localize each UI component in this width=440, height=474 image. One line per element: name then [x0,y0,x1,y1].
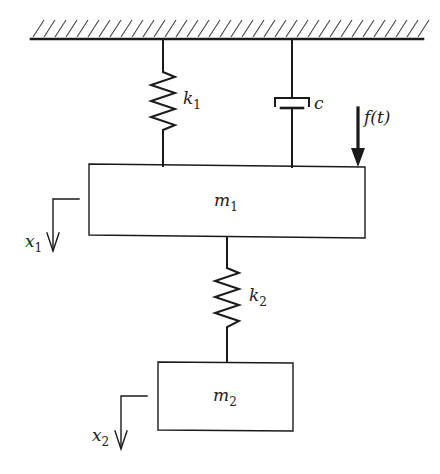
hatch-mark [66,20,77,37]
hatch-mark [418,20,429,37]
hatch-mark [99,20,110,37]
spring-k1: k1 [151,39,201,166]
hatch-mark [110,20,121,37]
hatch-mark [341,20,352,37]
hatch-mark [319,20,330,37]
mass-m2-label: m2 [213,385,237,409]
spring-k1-label: k1 [183,88,201,112]
damper-cylinder-icon [275,98,309,106]
hatch-mark [132,20,143,37]
hatch-mark [209,20,220,37]
hatch-mark [308,20,319,37]
hatch-mark [88,20,99,37]
hatch-mark [297,20,308,37]
ground-hatching [33,20,429,37]
hatch-mark [275,20,286,37]
ground-support [31,20,429,39]
hatch-mark [77,20,88,37]
force-f-label: f(t) [362,107,390,127]
displacement-x2: x2 [92,396,147,449]
hatch-mark [121,20,132,37]
hatch-mark [198,20,209,37]
mass-m1-label: m1 [214,190,238,214]
hatch-mark [253,20,264,37]
hatch-mark [176,20,187,37]
hatch-mark [33,20,44,37]
force-arrow-down-icon [351,148,365,167]
hatch-mark [55,20,66,37]
spring-k2: k2 [215,237,267,362]
mass-m2: m2 [158,362,293,431]
hatch-mark [385,20,396,37]
x1-reference-line [53,199,79,250]
hatch-mark [154,20,165,37]
spring-mass-damper-diagram: k1 c f(t) m1 x1 k2 [0,0,440,474]
displacement-x1: x1 [25,199,79,255]
damper-c-label: c [314,93,324,113]
hatch-mark [143,20,154,37]
x1-label: x1 [25,231,42,255]
hatch-mark [187,20,198,37]
x2-label: x2 [92,425,109,449]
hatch-mark [44,20,55,37]
hatch-mark [374,20,385,37]
hatch-mark [242,20,253,37]
hatch-mark [396,20,407,37]
damper-c: c [275,39,324,167]
hatch-mark [330,20,341,37]
hatch-mark [220,20,231,37]
spring-k2-icon [215,237,239,362]
spring-k1-icon [151,39,175,166]
x2-reference-line [121,396,147,448]
mass-m1: m1 [89,164,365,238]
force-f: f(t) [351,107,390,167]
hatch-mark [231,20,242,37]
hatch-mark [407,20,418,37]
hatch-mark [264,20,275,37]
spring-k2-label: k2 [249,285,267,309]
hatch-mark [165,20,176,37]
hatch-mark [363,20,374,37]
hatch-mark [286,20,297,37]
hatch-mark [352,20,363,37]
